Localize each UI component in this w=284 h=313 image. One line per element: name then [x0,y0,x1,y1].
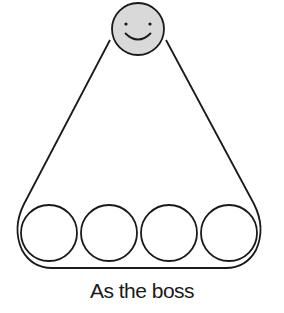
hierarchy-diagram [0,0,284,313]
diagram-caption: As the boss [0,279,284,303]
subordinate-circle-2 [81,205,137,261]
subordinate-circle-4 [201,205,257,261]
subordinate-circle-3 [141,205,197,261]
subordinate-circle-1 [21,205,77,261]
boss-smiley-icon [112,3,164,55]
